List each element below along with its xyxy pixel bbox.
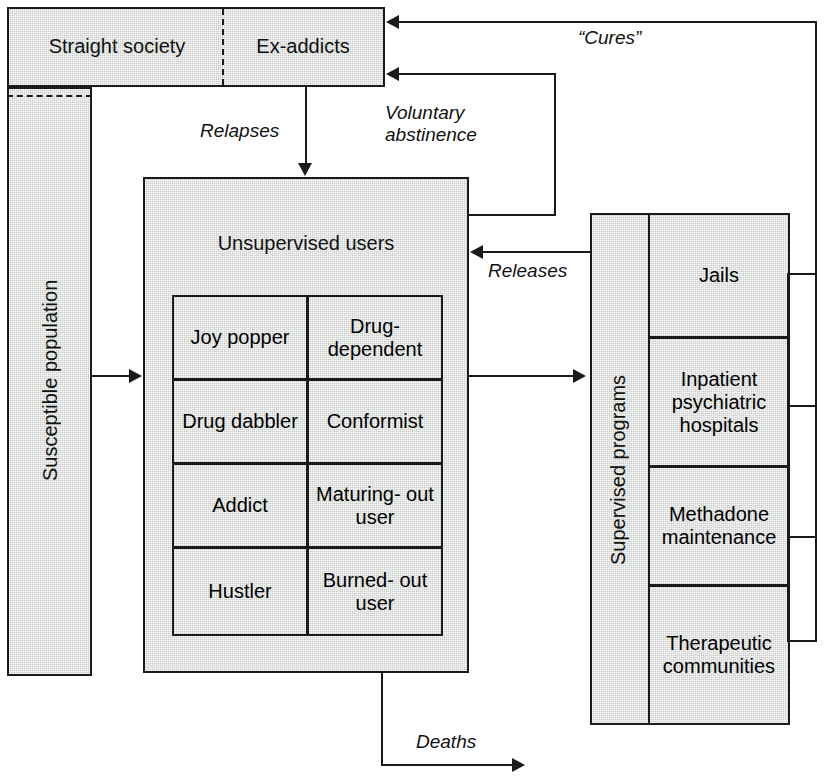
program-cell-therapeutic-communities: Therapeutic communities [648, 585, 790, 725]
deaths-line-vertical [381, 673, 383, 765]
deaths-label: Deaths [416, 731, 476, 753]
cures-connector-trunk-lower [787, 273, 789, 642]
straight-society-label: Straight society [17, 35, 217, 57]
voluntary-abstinence-label: Voluntary abstinence [385, 102, 477, 146]
program-cell-jails: Jails [648, 213, 790, 338]
relapses-arrow-head-icon [298, 163, 312, 176]
cures-connector-jails [789, 273, 817, 275]
program-cell-inpatient-psychiatric-hospitals: Inpatient psychiatric hospitals [648, 337, 790, 467]
susceptible-population-top-dashed-edge-icon [7, 95, 92, 97]
user-type-cell: Conformist [307, 379, 443, 464]
cures-line-vertical [815, 21, 817, 641]
susceptible-population-label: Susceptible population [39, 230, 62, 530]
deaths-line-horizontal [381, 764, 513, 766]
user-type-cell: Drug dabbler [172, 379, 308, 464]
diagram-canvas: Straight society Ex-addicts Susceptible … [0, 0, 824, 780]
releases-arrow-head-icon [470, 245, 483, 259]
straight-society-exaddicts-divider-icon [222, 9, 224, 85]
voluntary-abstinence-arrow-head-icon [386, 67, 399, 81]
susceptible-to-users-arrow-head-icon [129, 369, 142, 383]
cures-arrow-head-icon [386, 15, 399, 29]
unsupervised-users-title: Unsupervised users [143, 232, 469, 254]
user-type-cell: Hustler [172, 547, 308, 636]
cures-line-horizontal [398, 21, 817, 23]
cures-connector-inpatient [789, 405, 817, 407]
relapses-arrow-line [305, 87, 307, 163]
user-type-cell: Joy popper [172, 295, 308, 380]
user-type-cell: Drug- dependent [307, 295, 443, 380]
supervised-programs-label: Supervised programs [607, 345, 630, 595]
user-type-cell: Addict [172, 463, 308, 548]
to-programs-arrow-head-icon [573, 369, 586, 383]
to-programs-arrow-line [469, 375, 573, 377]
voluntary-abstinence-line-vertical [554, 73, 556, 216]
cures-connector-methadone [789, 536, 817, 538]
releases-label: Releases [488, 260, 567, 282]
relapses-label: Relapses [200, 120, 279, 142]
cures-connector-therapeutic [789, 640, 817, 642]
susceptible-to-users-arrow-line [92, 375, 130, 377]
voluntary-abstinence-line-bottom [469, 214, 556, 216]
voluntary-abstinence-line-top [398, 73, 556, 75]
releases-arrow-line [483, 251, 592, 253]
ex-addicts-label: Ex-addicts [228, 35, 378, 57]
cures-label: “Cures” [578, 27, 641, 49]
user-type-cell: Burned- out user [307, 547, 443, 636]
user-type-cell: Maturing- out user [307, 463, 443, 548]
program-cell-methadone-maintenance: Methadone maintenance [648, 466, 790, 586]
deaths-arrow-head-icon [512, 758, 525, 772]
